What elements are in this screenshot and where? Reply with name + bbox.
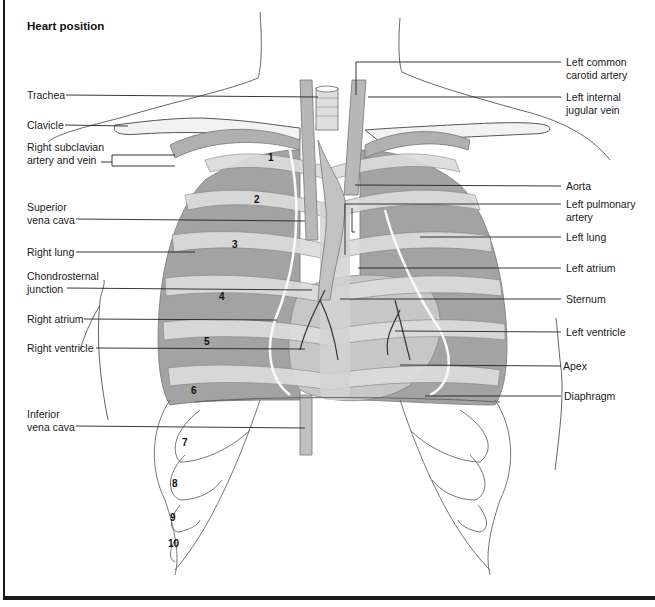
label-left-pulmonary-artery: Left pulmonaryartery bbox=[566, 198, 635, 223]
rib-number-2: 2 bbox=[254, 194, 260, 205]
label-right-ventricle: Right ventricle bbox=[27, 342, 94, 355]
label-left-internal-jugular: Left internaljugular vein bbox=[566, 91, 621, 116]
rib-number-6: 6 bbox=[191, 385, 197, 396]
label-left-ventricle: Left ventricle bbox=[566, 326, 626, 339]
label-left-common-carotid: Left commoncarotid artery bbox=[566, 56, 627, 81]
rib-number-7: 7 bbox=[182, 437, 188, 448]
label-right-subclavian: Right subclavianartery and vein bbox=[27, 141, 104, 166]
rib-number-5: 5 bbox=[204, 336, 210, 347]
label-aorta: Aorta bbox=[566, 180, 591, 193]
label-left-lung: Left lung bbox=[566, 231, 606, 244]
rib-number-3: 3 bbox=[232, 239, 238, 250]
rib-number-4: 4 bbox=[219, 291, 225, 302]
rib-number-9: 9 bbox=[170, 512, 176, 523]
label-left-atrium: Left atrium bbox=[566, 262, 616, 275]
lower-ribs bbox=[154, 400, 510, 575]
label-sternum: Sternum bbox=[566, 293, 606, 306]
trachea-shape bbox=[316, 86, 338, 130]
label-inferior-vena-cava: Inferiorvena cava bbox=[27, 408, 75, 433]
label-chondrosternal-junction: Chondrosternaljunction bbox=[27, 270, 99, 295]
heart-position-illustration bbox=[0, 0, 655, 607]
label-right-lung: Right lung bbox=[27, 246, 74, 259]
label-right-atrium: Right atrium bbox=[27, 313, 84, 326]
label-superior-vena-cava: Superiorvena cava bbox=[27, 201, 75, 226]
label-apex: Apex bbox=[563, 360, 587, 373]
label-diaphragm: Diaphragm bbox=[564, 390, 615, 403]
rib-number-8: 8 bbox=[172, 478, 178, 489]
label-clavicle: Clavicle bbox=[27, 119, 64, 132]
rib-number-10: 10 bbox=[168, 538, 179, 549]
label-trachea: Trachea bbox=[27, 89, 65, 102]
rib-number-1: 1 bbox=[268, 152, 274, 163]
